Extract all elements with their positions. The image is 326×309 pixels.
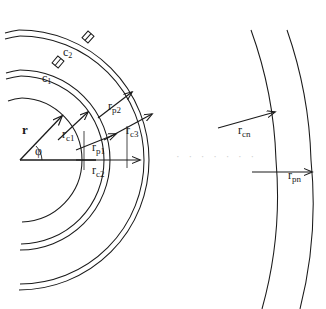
arc-p2-b-tail bbox=[5, 30, 19, 33]
thickness-marker-c2 bbox=[82, 31, 94, 43]
label-rp2: rp2 bbox=[108, 96, 121, 115]
label-rc1: rc1 bbox=[62, 124, 75, 143]
arc-cn bbox=[251, 30, 278, 309]
arc-p1-a-tail bbox=[6, 76, 21, 79]
label-rcn: rcn bbox=[238, 120, 251, 139]
label-vector-r: r bbox=[22, 122, 28, 138]
diagram-canvas: r φ rc1 rp2 rc3 rp1 rc2 rcn rpn c1 c2 · … bbox=[0, 0, 326, 309]
radius-leader-arrows-far bbox=[218, 112, 312, 172]
label-rpn: rpn bbox=[288, 165, 301, 184]
label-rc2: rc2 bbox=[92, 160, 105, 179]
arc-c1-tail bbox=[8, 98, 22, 101]
label-shell-c2: c2 bbox=[63, 45, 72, 60]
arc-p2-a-tail bbox=[5, 36, 20, 39]
origin-vectors bbox=[20, 116, 96, 160]
label-angle-phi: φ bbox=[35, 144, 42, 159]
arc-c1-inner-lower bbox=[22, 160, 82, 222]
arc-p2-a-lower bbox=[20, 160, 144, 284]
label-rp1: rp1 bbox=[92, 137, 105, 156]
arc-p1-b-tail bbox=[6, 70, 20, 73]
diagram-vector-layer bbox=[0, 0, 326, 309]
right-arc-group bbox=[251, 30, 313, 309]
label-shell-c1: c1 bbox=[42, 71, 51, 86]
arc-p2-b-lower bbox=[19, 160, 149, 290]
ellipsis-separator: · · · · · · · bbox=[176, 150, 257, 162]
label-rc3: rc3 bbox=[126, 120, 139, 139]
